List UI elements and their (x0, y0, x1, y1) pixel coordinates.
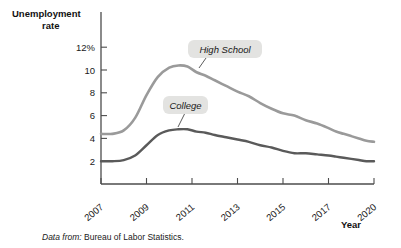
series-line-high-school (101, 65, 374, 141)
source-note-text: Bureau of Labor Statistics. (84, 232, 184, 242)
x-tick-label: 2009 (128, 201, 151, 223)
y-axis-title-line1: Unemployment (12, 8, 81, 19)
y-axis-ticks: 12%108642 (76, 42, 107, 167)
series-callout-high-school: High School (188, 40, 262, 68)
y-axis-title-line2: rate (42, 20, 59, 31)
y-tick-label: 6 (90, 110, 95, 121)
y-tick-label: 12% (76, 42, 96, 53)
series-line-college (101, 129, 374, 161)
y-tick-label: 8 (90, 87, 95, 98)
x-tick-label: 2011 (174, 201, 197, 223)
x-tick-label: 2013 (219, 201, 242, 223)
series-label-college: College (169, 100, 201, 111)
unemployment-rate-line-chart: Unemployment rate 12%108642 200720092011… (0, 0, 401, 248)
series-callout-college: College (163, 96, 208, 127)
x-axis-ticks: 2007200920112013201520172020 (82, 178, 378, 223)
chart-canvas: Unemployment rate 12%108642 200720092011… (0, 0, 401, 248)
leader-line-college (178, 113, 185, 127)
y-tick-label: 4 (90, 133, 95, 144)
x-tick-label: 2017 (310, 201, 333, 223)
y-tick-label: 10 (84, 65, 95, 76)
y-tick-label: 2 (90, 156, 95, 167)
source-note: Data from: Bureau of Labor Statistics. (42, 232, 184, 242)
source-note-prefix: Data from: (42, 232, 82, 242)
leader-line-high-school (199, 58, 206, 68)
x-tick-label: 2015 (264, 201, 287, 223)
x-axis-title: Year (341, 219, 361, 230)
x-tick-label: 2007 (82, 201, 105, 223)
series-label-high-school: High School (199, 44, 251, 55)
